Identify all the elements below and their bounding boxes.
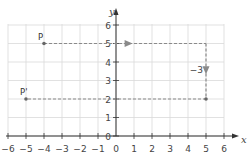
y-tick-label: 0 [105, 132, 111, 142]
x-tick-label: −1 [91, 144, 104, 154]
x-tick-label: 0 [113, 144, 119, 154]
arrow-down-icon [203, 66, 210, 74]
point-marker [24, 97, 28, 101]
translation-label: −3 [190, 65, 203, 75]
y-tick-label: 3 [105, 76, 111, 86]
x-tick-label: 6 [221, 144, 227, 154]
axes [6, 8, 239, 139]
x-tick-label: −6 [1, 144, 15, 154]
point-label: P [38, 32, 43, 42]
point-label: P' [20, 87, 27, 97]
translation-paths: −3 [26, 40, 210, 99]
x-tick-label: −5 [19, 144, 32, 154]
point-marker [42, 42, 46, 46]
x-tick-label: 2 [149, 144, 155, 154]
point-marker [204, 97, 208, 101]
x-axis-label: x [241, 134, 247, 145]
tick-labels: −6−5−4−3−2−101234560123456xy [1, 6, 247, 154]
y-axis-label: y [108, 6, 115, 17]
points: PP' [20, 32, 208, 101]
y-tick-label: 6 [105, 21, 111, 31]
x-tick-label: −2 [73, 144, 86, 154]
x-axis-arrow-icon [232, 134, 239, 139]
x-tick-label: 3 [167, 144, 173, 154]
x-tick-label: 1 [131, 144, 137, 154]
x-tick-label: −4 [37, 144, 51, 154]
x-tick-label: 5 [203, 144, 209, 154]
x-tick-label: −3 [55, 144, 68, 154]
y-tick-label: 1 [105, 113, 111, 123]
y-tick-label: 4 [105, 58, 111, 68]
arrow-right-icon [125, 40, 133, 47]
coordinate-grid: −6−5−4−3−2−101234560123456xy −3 PP' [0, 0, 249, 167]
x-tick-label: 4 [185, 144, 191, 154]
